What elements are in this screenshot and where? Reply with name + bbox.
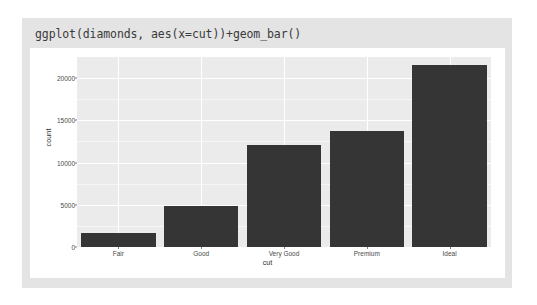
- code-title: ggplot(diamonds, aes(x=cut))+geom_bar(): [35, 27, 301, 41]
- plot-card: ggplot(diamonds, aes(x=cut))+geom_bar() …: [22, 18, 512, 288]
- x-tick-mark: [450, 247, 451, 249]
- bar-fair: [81, 233, 156, 247]
- bar-premium: [330, 131, 405, 247]
- x-tick-mark: [118, 247, 119, 249]
- x-tick-mark: [284, 247, 285, 249]
- x-tick-label: Fair: [113, 250, 124, 257]
- x-tick-label: Good: [193, 250, 209, 257]
- x-tick-label: Ideal: [443, 250, 457, 257]
- x-tick-label: Premium: [354, 250, 380, 257]
- gridline-major-x: [118, 57, 119, 247]
- plot-surface: count cut 05000100001500020000 FairGoodV…: [30, 48, 505, 278]
- bar-good: [164, 206, 239, 247]
- y-tick-label: 10000: [31, 159, 75, 166]
- y-tick-label: 15000: [31, 117, 75, 124]
- y-axis-tick-labels: 05000100001500020000: [30, 48, 75, 278]
- bar-very-good: [247, 145, 322, 247]
- chart-panel: [77, 57, 491, 247]
- y-tick-label: 20000: [31, 75, 75, 82]
- x-axis-title: cut: [30, 259, 505, 266]
- y-tick-label: 0: [31, 244, 75, 251]
- x-tick-mark: [201, 247, 202, 249]
- x-tick-mark: [367, 247, 368, 249]
- x-tick-label: Very Good: [269, 250, 300, 257]
- y-tick-label: 5000: [31, 201, 75, 208]
- bar-ideal: [412, 65, 487, 247]
